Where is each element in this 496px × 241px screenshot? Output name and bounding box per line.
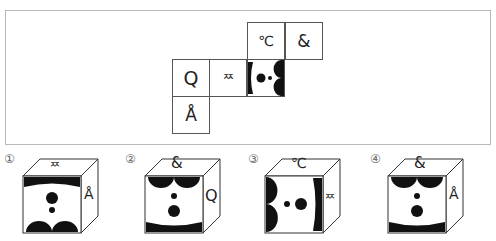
option-4-cube[interactable]: & Å (387, 158, 467, 236)
option-1-cube[interactable]: ᄍ Å (22, 158, 102, 236)
net-face-q: Q (172, 59, 210, 97)
top-face-symbol: ℃ (291, 155, 307, 171)
option-number: ② (125, 152, 136, 166)
top-face-symbol: ᄍ (50, 158, 60, 174)
option-2-cube[interactable]: & Q (144, 158, 224, 236)
option-number: ③ (248, 152, 259, 166)
top-face-symbol: & (171, 154, 183, 172)
option-number: ① (4, 152, 15, 166)
right-face-symbol: ᄍ (325, 190, 335, 206)
pattern-icon (248, 60, 284, 96)
option-3-cube[interactable]: ℃ ᄍ (264, 158, 344, 236)
net-face-ssang: ᄍ (209, 59, 247, 97)
net-face-a-ring: Å (172, 96, 210, 134)
option-number: ④ (370, 152, 381, 166)
net-face-ampersand: & (285, 22, 323, 60)
net-face-pattern (247, 59, 285, 97)
top-face-symbol: & (414, 154, 426, 172)
net-face-celsius: ℃ (247, 22, 285, 60)
right-face-symbol: Å (84, 186, 94, 202)
right-face-symbol: Q (205, 186, 218, 205)
right-face-symbol: Å (449, 186, 459, 202)
